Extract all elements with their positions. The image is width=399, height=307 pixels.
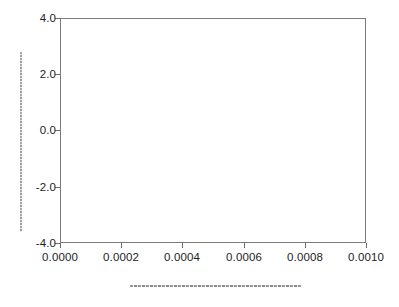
x-tick-mark-0.0008: [305, 243, 306, 248]
x-tick-label-0.0010: 0.0010: [348, 251, 384, 263]
plot-area: [61, 19, 365, 242]
y-tick-label-2.0: 2.0: [40, 68, 56, 80]
x-tick-mark-0.0002: [121, 243, 122, 248]
x-tick-mark-0.0010: [366, 243, 367, 248]
x-tick-label-0.0008: 0.0008: [287, 251, 323, 263]
y-tick-label-4.0: 4.0: [40, 12, 56, 24]
x-tick-label-0.0004: 0.0004: [164, 251, 200, 263]
x-tick-mark-0.0000: [60, 243, 61, 248]
x-tick-label-0.0006: 0.0006: [226, 251, 262, 263]
x-tick-mark-0.0004: [182, 243, 183, 248]
x-tick-label-0.0000: 0.0000: [42, 251, 78, 263]
x-axis-title: [130, 285, 301, 287]
y-axis-title: [20, 52, 22, 232]
chart-container: 4.0 2.0 0.0 -2.0 -4.0 0.0000 0.0002 0.00…: [0, 0, 399, 307]
y-tick-label-0.0: 0.0: [40, 124, 56, 136]
y-tick-label--2.0: -2.0: [36, 181, 56, 193]
plot-frame: [60, 18, 366, 243]
x-tick-label-0.0002: 0.0002: [103, 251, 139, 263]
x-tick-mark-0.0006: [244, 243, 245, 248]
y-tick-label--4.0: -4.0: [36, 237, 56, 249]
